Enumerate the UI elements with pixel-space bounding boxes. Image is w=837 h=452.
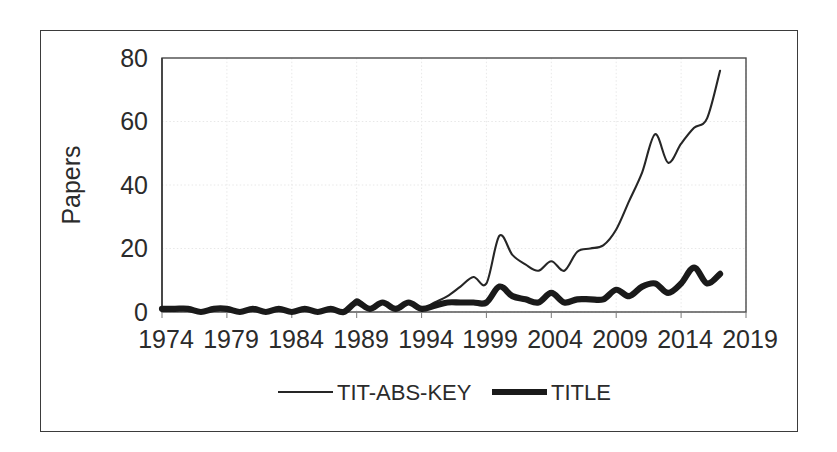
x-tick-1994: 1994 (398, 325, 454, 353)
series-line-tit-abs-key (162, 71, 720, 313)
legend-label-title: TITLE (551, 380, 611, 405)
y-axis-title: Papers (57, 145, 85, 224)
line-chart: 80 60 40 20 0 Papers 1974 1979 1984 1989… (0, 0, 837, 452)
y-tick-40: 40 (120, 171, 148, 199)
x-axis-tick-labels: 1974 1979 1984 1989 1994 1999 2004 2009 … (138, 325, 778, 353)
x-tick-1974: 1974 (138, 325, 194, 353)
y-axis-tick-labels: 80 60 40 20 0 (120, 44, 148, 326)
series-line-title (162, 268, 720, 313)
x-axis-ticks (162, 312, 746, 318)
x-tick-2019: 2019 (722, 325, 778, 353)
y-tick-60: 60 (120, 107, 148, 135)
x-tick-2004: 2004 (527, 325, 583, 353)
legend-label-tit-abs-key: TIT-ABS-KEY (337, 380, 472, 405)
chart-screenshot: 80 60 40 20 0 Papers 1974 1979 1984 1989… (0, 0, 837, 452)
x-tick-1999: 1999 (462, 325, 518, 353)
y-tick-80: 80 (120, 44, 148, 72)
x-tick-1984: 1984 (268, 325, 324, 353)
chart-legend: TIT-ABS-KEY TITLE (278, 380, 611, 405)
x-tick-1989: 1989 (333, 325, 389, 353)
x-tick-1979: 1979 (203, 325, 259, 353)
y-tick-20: 20 (120, 234, 148, 262)
x-tick-2014: 2014 (657, 325, 713, 353)
y-tick-0: 0 (134, 298, 148, 326)
x-tick-2009: 2009 (592, 325, 648, 353)
